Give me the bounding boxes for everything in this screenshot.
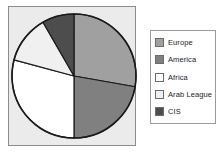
pie-container — [8, 6, 138, 148]
pie-slice[interactable] — [74, 14, 136, 87]
pie-slice[interactable] — [74, 76, 135, 138]
legend-item[interactable]: Africa — [155, 70, 212, 85]
legend-swatch-icon — [155, 90, 164, 99]
legend-item[interactable]: Europe — [155, 35, 212, 50]
pie-chart-figure: EuropeAmericaAfricaArab LeagueCIS — [0, 0, 224, 158]
legend-swatch-icon — [155, 73, 164, 82]
legend-item[interactable]: CIS — [155, 104, 212, 119]
legend-item-label: Africa — [168, 73, 188, 82]
legend-swatch-icon — [155, 107, 164, 116]
legend-swatch-icon — [155, 38, 164, 47]
legend-item-label: Arab League — [168, 90, 212, 99]
legend-swatch-icon — [155, 55, 164, 64]
legend-item[interactable]: Arab League — [155, 87, 212, 102]
legend-item-label: CIS — [168, 107, 181, 116]
legend-item[interactable]: America — [155, 52, 212, 67]
legend-item-label: America — [168, 55, 196, 64]
legend: EuropeAmericaAfricaArab LeagueCIS — [150, 30, 216, 124]
pie-svg — [8, 6, 138, 148]
legend-item-label: Europe — [168, 38, 193, 47]
legend-list: EuropeAmericaAfricaArab LeagueCIS — [155, 35, 212, 119]
